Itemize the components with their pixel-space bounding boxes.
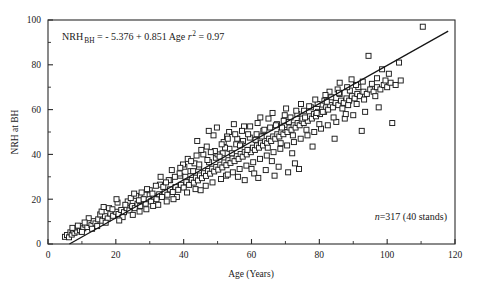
- regression-equation-annotation: NRHBH = - 5.376 + 0.851 Age r2 = 0.97: [62, 29, 224, 44]
- plot-canvas: 020406080100120020406080100 NRHBH = - 5.…: [0, 0, 487, 289]
- data-point-marker: [359, 128, 364, 133]
- data-point-marker: [271, 150, 276, 155]
- data-point-marker: [265, 145, 270, 150]
- data-point-marker: [258, 115, 263, 120]
- x-tick-label: 120: [448, 250, 463, 260]
- data-point-marker: [373, 94, 378, 99]
- data-point-marker: [298, 136, 303, 141]
- data-point-marker: [177, 171, 182, 176]
- data-point-marker: [225, 136, 230, 141]
- data-point-marker: [101, 205, 106, 210]
- data-point-marker: [225, 172, 230, 177]
- data-point-marker: [366, 53, 371, 58]
- data-point-marker: [290, 133, 295, 138]
- data-points-layer: [62, 24, 425, 240]
- data-point-marker: [310, 144, 315, 149]
- data-point-marker: [363, 109, 368, 114]
- x-axis-title: Age (Years): [228, 269, 274, 280]
- x-tick-label: 100: [380, 250, 395, 260]
- data-point-marker: [193, 187, 198, 192]
- data-point-marker: [246, 132, 251, 137]
- data-point-marker: [214, 125, 219, 130]
- data-point-marker: [206, 128, 211, 133]
- data-point-marker: [278, 141, 283, 146]
- x-tick-label: 40: [179, 250, 189, 260]
- data-point-marker: [171, 197, 176, 202]
- data-point-marker: [230, 170, 235, 175]
- data-point-marker: [398, 78, 403, 83]
- data-point-marker: [139, 190, 144, 195]
- sample-size-annotation: n=317 (40 stands): [375, 211, 447, 223]
- x-tick-label: 60: [247, 250, 257, 260]
- data-point-marker: [314, 110, 319, 115]
- data-point-marker: [205, 158, 210, 163]
- scatter-plot-figure: 020406080100120020406080100 NRHBH = - 5.…: [0, 0, 487, 289]
- data-point-marker: [248, 124, 253, 129]
- data-point-marker: [194, 153, 199, 158]
- data-point-marker: [320, 109, 325, 114]
- data-point-marker: [262, 127, 267, 132]
- data-point-marker: [75, 223, 80, 228]
- y-tick-label: 100: [27, 15, 42, 25]
- data-point-marker: [150, 191, 155, 196]
- data-point-marker: [313, 97, 318, 102]
- data-point-marker: [292, 161, 297, 166]
- data-point-marker: [294, 108, 299, 113]
- data-point-marker: [153, 183, 158, 188]
- data-point-marker: [123, 202, 128, 207]
- data-point-marker: [245, 147, 250, 152]
- data-point-marker: [332, 136, 337, 141]
- data-point-marker: [251, 160, 256, 165]
- data-point-marker: [169, 168, 174, 173]
- data-point-marker: [272, 173, 277, 178]
- data-point-marker: [303, 115, 308, 120]
- data-point-marker: [256, 175, 261, 180]
- data-point-marker: [165, 192, 170, 197]
- data-point-marker: [349, 77, 354, 82]
- y-axis-title: NRH at BH: [10, 109, 20, 154]
- data-point-marker: [312, 130, 317, 135]
- data-point-marker: [170, 190, 175, 195]
- data-point-marker: [383, 78, 388, 83]
- data-point-marker: [82, 220, 87, 225]
- data-point-marker: [210, 180, 215, 185]
- data-point-marker: [235, 174, 240, 179]
- data-point-marker: [397, 60, 402, 65]
- data-point-marker: [284, 106, 289, 111]
- data-point-marker: [331, 115, 336, 120]
- data-point-marker: [218, 177, 223, 182]
- data-point-marker: [278, 146, 283, 151]
- data-point-marker: [420, 24, 425, 29]
- data-point-marker: [244, 163, 249, 168]
- data-point-marker: [304, 127, 309, 132]
- data-point-marker: [208, 150, 213, 155]
- data-point-marker: [110, 207, 115, 212]
- y-tick-label: 0: [36, 239, 41, 249]
- data-point-marker: [203, 183, 208, 188]
- data-point-marker: [276, 164, 281, 169]
- data-point-marker: [369, 81, 374, 86]
- data-point-marker: [269, 159, 274, 164]
- data-point-marker: [266, 116, 271, 121]
- data-point-marker: [154, 197, 159, 202]
- data-point-marker: [219, 142, 224, 147]
- data-point-marker: [136, 198, 141, 203]
- data-point-marker: [268, 125, 273, 130]
- data-point-marker: [325, 123, 330, 128]
- data-point-marker: [70, 225, 75, 230]
- y-tick-label: 80: [32, 60, 42, 70]
- data-point-marker: [286, 170, 291, 175]
- data-point-marker: [204, 144, 209, 149]
- data-point-marker: [340, 106, 345, 111]
- data-point-marker: [374, 76, 379, 81]
- data-point-marker: [386, 71, 391, 76]
- data-point-marker: [176, 187, 181, 192]
- data-point-marker: [197, 162, 202, 167]
- y-tick-label: 40: [32, 150, 42, 160]
- data-point-marker: [346, 103, 351, 108]
- data-point-marker: [263, 168, 268, 173]
- data-point-marker: [144, 207, 149, 212]
- data-point-marker: [393, 82, 398, 87]
- data-point-marker: [323, 93, 328, 98]
- x-tick-label: 0: [46, 250, 51, 260]
